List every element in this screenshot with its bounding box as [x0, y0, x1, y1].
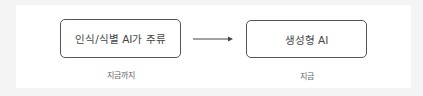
- arrow-icon: [193, 34, 235, 44]
- caption-past: 지금까지: [60, 69, 181, 80]
- node-past-label: 인식/식별 AI가 주류: [75, 31, 166, 46]
- node-now: 생성형 AI: [246, 20, 367, 58]
- node-past: 인식/식별 AI가 주류: [60, 19, 181, 58]
- node-now-label: 생성형 AI: [285, 32, 329, 47]
- caption-now: 지금: [246, 70, 367, 81]
